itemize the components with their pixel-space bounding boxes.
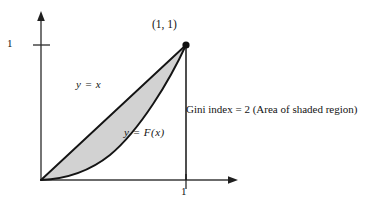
x-axis-arrow-icon	[228, 176, 238, 184]
data-point-marker-1-1	[182, 41, 189, 48]
x-axis-tick-label-one: 1	[181, 186, 187, 197]
y-axis-arrow-icon	[37, 11, 45, 21]
diagonal-curve-label: y = x	[76, 79, 101, 90]
lorenz-curve-label: y = F(x)	[124, 127, 165, 138]
gini-index-formula-text: Gini index = 2 (Area of shaded region)	[186, 104, 357, 115]
point-label-1-1: (1, 1)	[152, 19, 177, 31]
y-axis-tick-label-one: 1	[7, 38, 13, 49]
diagonal-line-y-equals-x	[41, 45, 186, 180]
